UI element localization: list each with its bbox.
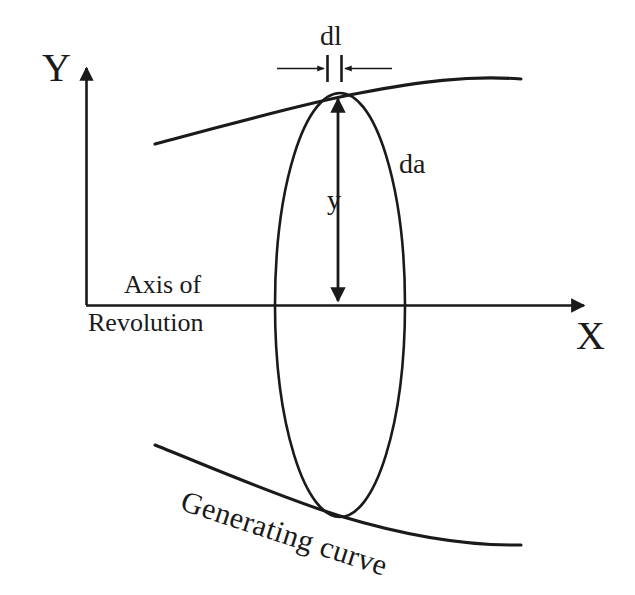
da-label: da <box>399 150 425 178</box>
axis-of-revolution-line2-label: Revolution <box>88 310 204 336</box>
y-dimension-label: y <box>327 186 341 214</box>
y-axis-label: Y <box>42 48 71 88</box>
dl-label: dl <box>320 22 342 50</box>
diagram-vector-layer <box>0 0 635 595</box>
x-axis-label: X <box>576 316 605 356</box>
diagram-canvas: Y X dl da y Axis of Revolution Generatin… <box>0 0 635 595</box>
axis-of-revolution-line1-label: Axis of <box>124 272 201 298</box>
